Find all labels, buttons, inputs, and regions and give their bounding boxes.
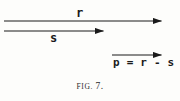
figure-caption-prefix: FIG. [77,82,93,91]
figure-container: r s p = r - s FIG. 7. [0,0,180,101]
figure-caption-number: 7. [96,81,104,91]
vector-s-label: s [50,32,57,44]
figure-caption: FIG. 7. [0,81,180,91]
vector-p-label: p = r - s [113,57,174,68]
vector-r-label: r [76,7,83,19]
